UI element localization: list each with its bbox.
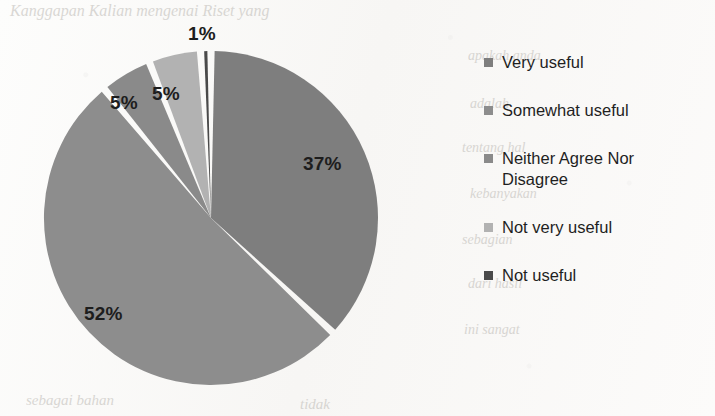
legend-item-label: Not very useful [502, 217, 612, 238]
pie-slice-label: 5% [110, 92, 138, 114]
pie-slice-label: 5% [152, 83, 180, 105]
pie-chart: 37%52%5%5%1% [0, 0, 440, 416]
chart-legend: Very usefulSomewhat usefulNeither Agree … [484, 52, 709, 313]
legend-item-label: Neither Agree Nor Disagree [502, 148, 697, 190]
legend-item-label: Somewhat useful [502, 100, 629, 121]
pie-slice-label: 1% [188, 23, 216, 45]
pie-slice-label: 37% [303, 153, 342, 175]
legend-swatch-icon [484, 58, 493, 67]
legend-item[interactable]: Neither Agree Nor Disagree [484, 148, 709, 190]
legend-item[interactable]: Not very useful [484, 217, 709, 238]
legend-item-label: Very useful [502, 52, 584, 73]
legend-swatch-icon [484, 271, 493, 280]
scanned-chart-page: Kanggapan Kalian mengenai Riset yangapak… [0, 0, 715, 416]
legend-item[interactable]: Not useful [484, 265, 709, 286]
legend-item-label: Not useful [502, 265, 576, 286]
bleedthrough-text: ini sangat [464, 322, 520, 338]
pie-slice-group [44, 51, 378, 385]
legend-swatch-icon [484, 223, 493, 232]
pie-slice-label: 52% [84, 303, 123, 325]
pie-chart-svg [0, 0, 440, 416]
legend-item[interactable]: Very useful [484, 52, 709, 73]
legend-item[interactable]: Somewhat useful [484, 100, 709, 121]
legend-swatch-icon [484, 106, 493, 115]
legend-swatch-icon [484, 154, 493, 163]
